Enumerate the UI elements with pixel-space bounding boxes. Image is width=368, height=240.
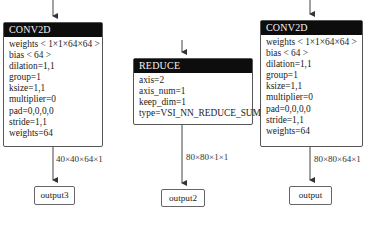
node-reduce[interactable]: REDUCE axis=2 axis_num=1 keep_dim=1 type… (133, 58, 253, 125)
node-attr: bias < 64 > (266, 48, 357, 59)
node-attr: weights=64 (9, 128, 97, 139)
node-attr: weights=64 (266, 126, 357, 137)
output-node-output[interactable]: output (289, 186, 332, 205)
edge-label-output: 80×80×64×1 (314, 154, 361, 164)
node-attr: keep_dim=1 (139, 97, 247, 108)
node-attr: ksize=1,1 (266, 81, 357, 92)
output-node-output3[interactable]: output3 (34, 186, 75, 205)
edge-label-output3: 40×40×64×1 (56, 154, 103, 164)
node-conv2d-left[interactable]: CONV2D weights < 1×1×64×64 > bias < 64 >… (3, 22, 103, 147)
node-title: CONV2D (261, 21, 362, 35)
node-attr: pad=0,0,0,0 (266, 104, 357, 115)
node-attr: weights < 1×1×64×64 > (266, 37, 357, 48)
node-attr: bias < 64 > (9, 50, 97, 61)
node-attr: axis_num=1 (139, 86, 247, 97)
edge-label-output2: 80×80×1×1 (186, 152, 228, 162)
node-title: CONV2D (4, 23, 102, 37)
node-attr: dilation=1,1 (266, 59, 357, 70)
node-attr: multiplier=0 (9, 94, 97, 105)
node-attr: dilation=1,1 (9, 61, 97, 72)
node-conv2d-right[interactable]: CONV2D weights < 1×1×64×64 > bias < 64 >… (260, 20, 363, 147)
node-attr: multiplier=0 (266, 92, 357, 103)
output-node-output2[interactable]: output2 (161, 189, 205, 207)
node-attr: group=1 (266, 70, 357, 81)
node-attr: pad=0,0,0,0 (9, 106, 97, 117)
node-attr: stride=1,1 (266, 115, 357, 126)
node-attr: weights < 1×1×64×64 > (9, 39, 97, 50)
node-attr: ksize=1,1 (9, 83, 97, 94)
node-attr: axis=2 (139, 75, 247, 86)
node-attr: type=VSI_NN_REDUCE_SUM (139, 108, 247, 119)
node-attr: stride=1,1 (9, 117, 97, 128)
node-attr: group=1 (9, 72, 97, 83)
node-title: REDUCE (134, 59, 252, 73)
